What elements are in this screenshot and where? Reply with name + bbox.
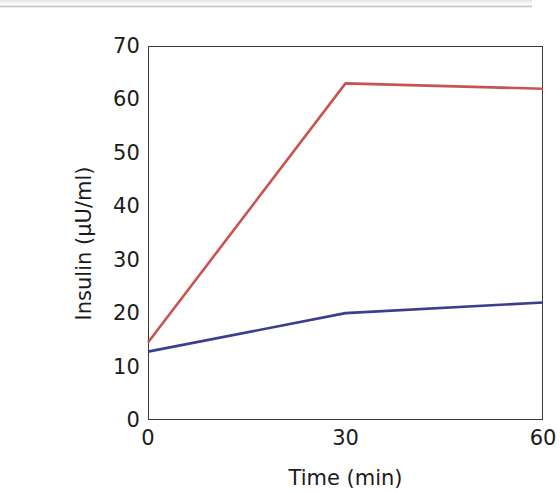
y-tick-label-50: 50 (113, 142, 140, 163)
x-tick-label-0: 0 (141, 428, 154, 449)
line-red-series (148, 83, 543, 342)
insulin-time-line-chart: 010203040506070 Insulin (μU/ml) 03060 Ti… (40, 16, 560, 493)
y-tick-label-10: 10 (113, 356, 140, 377)
x-axis-title: Time (min) (148, 468, 543, 489)
x-axis-tick-labels: 03060 (148, 428, 543, 458)
series-layer (148, 83, 543, 351)
scan-artifact-line (0, 5, 532, 8)
y-tick-label-70: 70 (113, 36, 140, 57)
x-tick-label-30: 30 (332, 428, 359, 449)
plot-area (148, 46, 543, 420)
y-axis-title: Insulin (μU/ml) (74, 124, 95, 364)
y-tick-label-0: 0 (126, 410, 140, 431)
y-tick-label-40: 40 (113, 196, 140, 217)
y-axis-tick-labels: 010203040506070 (88, 46, 140, 420)
y-tick-label-30: 30 (113, 249, 140, 270)
x-tick-label-60: 60 (530, 428, 557, 449)
y-tick-label-60: 60 (113, 89, 140, 110)
line-blue-series (148, 302, 543, 351)
y-tick-label-20: 20 (113, 303, 140, 324)
